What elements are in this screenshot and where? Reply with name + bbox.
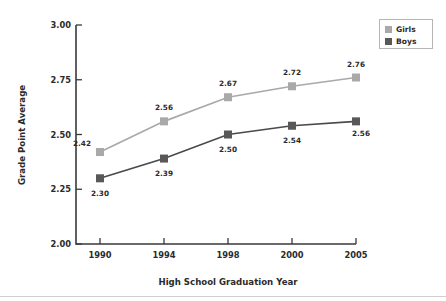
x-axis-ticks	[100, 238, 356, 244]
legend-item-girls[interactable]: Girls	[385, 23, 432, 35]
legend-item-boys[interactable]: Boys	[385, 35, 432, 47]
value-label-girls: 2.56	[155, 103, 173, 112]
value-label-boys: 2.50	[219, 145, 237, 154]
y-tick-label: 3.00	[51, 20, 72, 30]
page-bottom-rule	[0, 296, 446, 297]
x-tick-label: 1994	[152, 250, 175, 260]
x-axis-title: High School Graduation Year	[158, 277, 298, 287]
axis-lines	[76, 25, 356, 244]
value-label-boys: 2.54	[283, 136, 301, 145]
value-label-girls: 2.72	[283, 68, 301, 77]
gpa-line-chart: 3.00 2.75 2.50 2.25 2.00 1990 1994 1998 …	[0, 0, 446, 301]
y-tick-label: 2.50	[51, 130, 72, 140]
legend-label-boys: Boys	[396, 37, 416, 46]
x-tick-label: 2000	[280, 250, 303, 260]
legend-swatch-boys-icon	[385, 38, 392, 45]
value-label-girls: 2.42	[73, 139, 91, 148]
y-axis-title: Grade Point Average	[17, 85, 27, 185]
y-tick-label: 2.75	[51, 75, 72, 85]
value-label-boys: 2.30	[91, 189, 109, 198]
y-axis-ticks	[76, 25, 82, 244]
legend-swatch-girls-icon	[385, 26, 392, 33]
value-label-girls: 2.67	[219, 79, 237, 88]
y-axis-tick-labels: 3.00 2.75 2.50 2.25 2.00	[51, 20, 72, 249]
chart-legend: Girls Boys	[379, 19, 433, 49]
x-tick-label: 1998	[216, 250, 239, 260]
series-line-girls	[100, 78, 356, 153]
x-axis-tick-labels: 1990 1994 1998 2000 2005	[88, 250, 367, 260]
value-label-girls: 2.76	[347, 60, 365, 69]
value-label-boys: 2.39	[155, 169, 173, 178]
legend-label-girls: Girls	[396, 25, 416, 34]
value-label-boys: 2.56	[352, 129, 370, 138]
x-tick-label: 1990	[88, 250, 111, 260]
y-tick-label: 2.00	[51, 239, 72, 249]
y-tick-label: 2.25	[51, 184, 72, 194]
x-tick-label: 2005	[344, 250, 367, 260]
value-labels-girls: 2.42 2.56 2.67 2.72 2.76	[73, 60, 365, 148]
value-labels-boys: 2.30 2.39 2.50 2.54 2.56	[91, 129, 370, 198]
